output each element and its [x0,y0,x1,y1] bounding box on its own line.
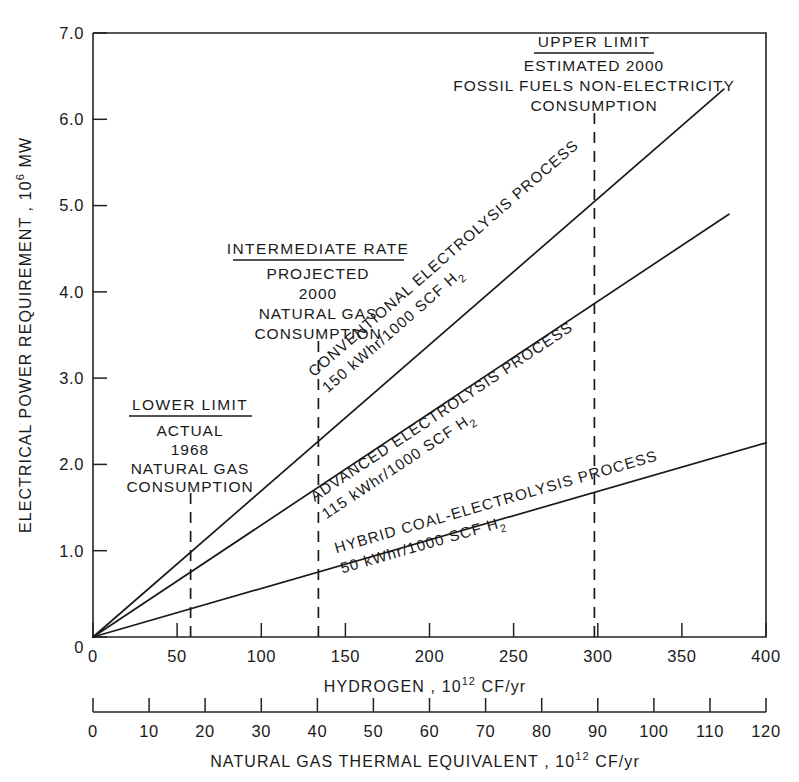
y-axis-title-unit: MW [17,137,34,173]
y-ticklabel-7: 7.0 [59,24,84,42]
x-ticklabel-6: 300 [583,647,612,665]
x2-ticklabel-1: 10 [139,722,159,740]
x2-ticklabel-4: 40 [308,722,328,740]
annotation-intermediate-rate-line-1: 2000 [299,285,337,302]
secondary-x-axis-title-unit: CF/yr [590,753,640,770]
annotation-intermediate-rate-line-0: PROJECTED [267,265,370,282]
annotation-lower-limit-line-2: NATURAL GAS [131,460,250,477]
annotation-lower-limit-line-0: ACTUAL [156,422,223,439]
y-ticklabel-0: 0 [74,638,84,656]
y-ticklabel-5: 5.0 [59,196,84,214]
x-axis-title-exponent: 12 [462,675,476,687]
x-ticklabel-2: 100 [247,647,276,665]
annotation-lower-limit-line-3: CONSUMPTION [126,478,253,495]
y-ticklabel-1: 1.0 [59,542,84,560]
x-ticklabel-8: 400 [751,647,780,665]
annotation-upper-limit: UPPER LIMIT ESTIMATED 2000 FOSSIL FUELS … [453,33,735,114]
y-axis-title-text: ELECTRICAL POWER REQUIREMENT , 10 [17,180,34,533]
x2-ticklabel-12: 120 [751,722,780,740]
x2-ticklabel-8: 80 [532,722,552,740]
series-lines [93,89,766,637]
x2-ticklabel-9: 90 [588,722,608,740]
x2-ticklabel-2: 20 [195,722,215,740]
x-axis-title-unit: CF/yr [476,678,526,695]
y-ticklabel-4: 4.0 [59,283,84,301]
annotation-lower-limit: LOWER LIMIT ACTUAL 1968 NATURAL GAS CONS… [126,396,253,495]
x-axis-title-text: HYDROGEN , 10 [324,678,462,695]
x-ticklabel-0: 0 [88,647,98,665]
x2-ticklabel-11: 110 [696,722,724,740]
x-axis-title: HYDROGEN , 1012 CF/yr [324,675,526,695]
annotation-upper-limit-line-2: CONSUMPTION [530,97,657,114]
x2-ticklabel-6: 60 [420,722,440,740]
chart-svg: 0 1.0 2.0 3.0 4.0 5.0 6.0 7.0 ELECTRICAL… [0,0,799,782]
x-ticklabel-1: 50 [167,647,187,665]
svg-text:ELECTRICAL POWER REQUIREMENT ,: ELECTRICAL POWER REQUIREMENT , 106 MW [14,137,34,533]
annotation-upper-limit-heading: UPPER LIMIT [538,33,651,50]
annotation-lower-limit-line-1: 1968 [171,441,209,458]
y-ticklabel-2: 2.0 [59,455,84,473]
x-axis-secondary: 0 10 20 30 40 50 60 70 80 90 100 110 120… [88,698,781,770]
x2-ticklabel-7: 70 [476,722,496,740]
y-axis-title-exponent: 6 [14,173,26,180]
annotation-upper-limit-line-1: FOSSIL FUELS NON-ELECTRICITY [453,77,735,94]
x-axis-primary: 0 50 100 150 200 250 300 350 400 HYDROGE… [88,623,781,695]
x2-ticklabel-10: 100 [639,722,668,740]
y-ticklabel-6: 6.0 [59,110,84,128]
secondary-x-axis-title-exponent: 12 [575,750,589,762]
y-axis-title: ELECTRICAL POWER REQUIREMENT , 106 MW [14,137,34,533]
x-ticklabel-4: 200 [415,647,444,665]
x-ticklabel-3: 150 [331,647,360,665]
secondary-x-axis-title-text: NATURAL GAS THERMAL EQUIVALENT , 10 [210,753,575,770]
y-ticklabel-3: 3.0 [59,369,84,387]
curve-label-hybrid-rate-sub: 2 [498,521,508,535]
x2-ticklabel-5: 50 [364,722,384,740]
chart-figure: 0 1.0 2.0 3.0 4.0 5.0 6.0 7.0 ELECTRICAL… [0,0,799,782]
x2-ticklabel-0: 0 [88,722,98,740]
curve-label-hybrid-name: HYBRID COAL-ELECTROLYSIS PROCESS [332,447,659,556]
secondary-x-axis-title: NATURAL GAS THERMAL EQUIVALENT , 1012 CF… [210,750,640,770]
x2-ticklabel-3: 30 [252,722,272,740]
x-ticklabel-5: 250 [499,647,528,665]
y-axis: 0 1.0 2.0 3.0 4.0 5.0 6.0 7.0 [59,24,107,656]
annotation-lower-limit-heading: LOWER LIMIT [132,396,248,413]
annotation-intermediate-rate-heading: INTERMEDIATE RATE [227,240,410,257]
x-ticklabel-7: 350 [667,647,696,665]
annotation-upper-limit-line-0: ESTIMATED 2000 [524,57,664,74]
